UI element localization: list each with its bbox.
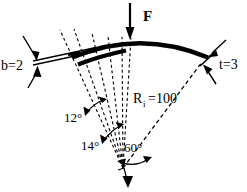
- t-arrow-lower-head: [203, 65, 213, 75]
- beam-outer-arc: [72, 43, 208, 57]
- b-arrow-lower-head: [33, 66, 42, 78]
- t-arrow-upper-shaft: [212, 40, 226, 53]
- radial-line-5: [122, 37, 123, 168]
- force-arrow-head: [126, 27, 135, 40]
- angle-60-label: 60°: [124, 140, 142, 155]
- apex-arrow-head: [123, 176, 134, 188]
- inner-radius-label-main: R: [133, 91, 143, 106]
- inner-radius-label-group: R i =100: [133, 91, 177, 109]
- curved-beam-diagram: F b=2 t=3 R i =100 12° 14° 60°: [0, 0, 247, 192]
- angle-14-label: 14°: [81, 138, 99, 153]
- angle-12-label: 12°: [64, 110, 82, 125]
- angle-14-arc: [104, 126, 120, 140]
- angle-60-marker: [117, 156, 152, 166]
- b-dimension-arrows: [23, 36, 42, 88]
- angle-14-arrowhead-left: [100, 135, 108, 145]
- force-arrow-group: [126, 3, 135, 40]
- apex-tick: [118, 168, 124, 170]
- angle-12-arrowhead-left: [84, 107, 91, 117]
- angle-60-arc: [122, 159, 148, 164]
- inner-radius-label-value: =100: [148, 91, 177, 106]
- inner-radius-label-subscript: i: [143, 99, 146, 109]
- apex-arrow-group: [118, 168, 133, 188]
- thickness-label: t=3: [219, 57, 238, 72]
- t-arrow-upper-head: [207, 50, 218, 58]
- force-label: F: [143, 8, 152, 24]
- figure-container: F b=2 t=3 R i =100 12° 14° 60°: [0, 0, 247, 192]
- width-label: b=2: [1, 58, 23, 73]
